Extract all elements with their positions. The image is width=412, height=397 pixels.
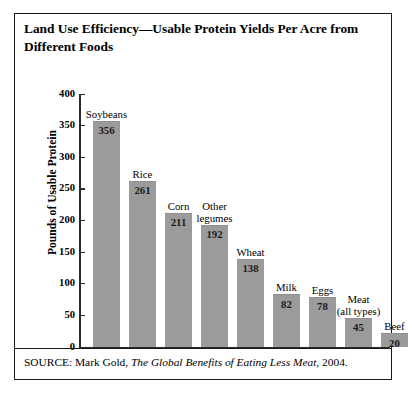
chart-plot-area: Pounds of Usable Protein 050100150200250… bbox=[15, 68, 390, 360]
chart-title: Land Use Efficiency—Usable Protein Yield… bbox=[24, 20, 379, 55]
bar-value-label: 138 bbox=[237, 262, 264, 274]
bar-category-label: Meat(all types) bbox=[329, 294, 388, 317]
bar-category-label-line: Other bbox=[185, 201, 244, 213]
bar-category-label-line: (all types) bbox=[329, 306, 388, 318]
source-note: SOURCE: Mark Gold, The Global Benefits o… bbox=[24, 356, 348, 368]
bar-rect bbox=[165, 213, 192, 347]
bar-rect bbox=[201, 225, 228, 347]
bar-category-label-line: Meat bbox=[329, 294, 388, 306]
bar-value-label: 82 bbox=[273, 298, 300, 310]
bar-category-label: Wheat bbox=[221, 247, 280, 259]
bar-category-label-line: legumes bbox=[185, 213, 244, 225]
bar-category-label: Beef bbox=[365, 321, 412, 333]
bar-value-label: 356 bbox=[93, 124, 120, 136]
bar-item: 211Corn bbox=[165, 214, 192, 347]
bar-rect bbox=[93, 121, 120, 347]
bar-item: 20Beef bbox=[381, 334, 408, 347]
source-title: The Global Benefits of Eating Less Meat bbox=[131, 356, 316, 368]
bar-category-label: Rice bbox=[113, 169, 172, 181]
bar-category-label: Otherlegumes bbox=[185, 201, 244, 224]
source-divider bbox=[15, 348, 391, 349]
source-prefix: SOURCE: Mark Gold, bbox=[24, 356, 131, 368]
bar-value-label: 261 bbox=[129, 184, 156, 196]
bar-category-label-line: Beef bbox=[365, 321, 412, 333]
bar-category-label-line: Wheat bbox=[221, 247, 280, 259]
source-suffix: , 2004. bbox=[316, 356, 347, 368]
bar-item: 356Soybeans bbox=[93, 122, 120, 347]
bar-item: 82Milk bbox=[273, 295, 300, 347]
bar-item: 138Wheat bbox=[237, 260, 264, 347]
bar-value-label: 192 bbox=[201, 228, 228, 240]
bar-item: 192Otherlegumes bbox=[201, 226, 228, 347]
bar-category-label-line: Soybeans bbox=[77, 109, 136, 121]
bar-category-label-line: Rice bbox=[113, 169, 172, 181]
figure-frame: Land Use Efficiency—Usable Protein Yield… bbox=[14, 13, 392, 380]
bar-category-label: Soybeans bbox=[77, 109, 136, 121]
bar-series: 356Soybeans261Rice211Corn192Otherlegumes… bbox=[15, 68, 390, 360]
